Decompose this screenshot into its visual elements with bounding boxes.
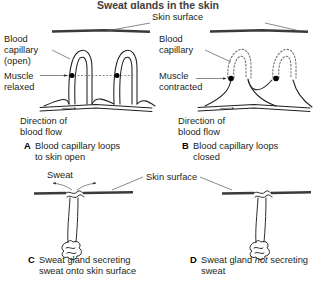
panel-d-caption-prefix: Sweat gland	[201, 255, 255, 265]
panel-d-skin-surface-right	[271, 192, 311, 193]
panel-a-muscle-label-line2: relaxed	[4, 82, 35, 92]
panel-c-sweat-label: Sweat	[47, 170, 73, 180]
panel-b-caption-line1: Blood capillary loops	[193, 141, 279, 151]
skin-surface-label-bottom: Skin surface	[146, 172, 197, 182]
panel-d-caption-suffix: secreting	[268, 255, 308, 265]
panel-b-caption-letter: B	[182, 141, 189, 151]
panel-b-capillary-label-line1: Blood	[159, 34, 183, 44]
panel-a-caption-line2: to skin open	[35, 152, 85, 162]
panel-d-caption-line2: sweat	[201, 266, 226, 276]
panel-c-caption-line1: Sweat gland secreting	[39, 255, 130, 265]
panel-b-muscle-label-line1: Muscle	[159, 71, 188, 81]
panel-c-skin-surface-left	[34, 193, 66, 194]
panel-c-caption-letter: C	[28, 255, 35, 265]
panel-a-capillary-label-line2: capillary	[4, 45, 38, 55]
panel-c-caption-line2: sweat onto skin surface	[39, 266, 136, 276]
panel-b-caption-line2: closed	[193, 152, 220, 162]
panel-a-caption-letter: A	[24, 141, 31, 151]
panel-a-flow-label-line2: blood flow	[20, 127, 62, 137]
panel-b-muscle-dot-left	[228, 76, 234, 82]
panel-b-capillary-label-line2: capillary	[159, 45, 193, 55]
panel-c-skin-surface-right	[83, 192, 133, 193]
panel-a-muscle-dot-right	[115, 73, 120, 78]
panel-a-muscle-dot-left	[70, 73, 75, 78]
panel-b-muscle-label-line2: contracted	[159, 82, 202, 92]
sweat-gland-and-capillary-figure: Sweat glands in the skin Blood capillary…	[0, 0, 317, 282]
panel-a-caption-line1: Blood capillary loops	[35, 141, 121, 151]
panel-b-muscle-dot-right	[273, 76, 279, 82]
panel-d-caption-line1: Sweat gland not secreting	[201, 255, 308, 265]
panel-b-flow-label-line1: Direction of	[178, 116, 225, 126]
skin-surface-label-top: Skin surface	[152, 12, 203, 22]
panel-a-muscle-label-line1: Muscle	[4, 71, 33, 81]
panel-b-flow-label-line2: blood flow	[178, 127, 220, 137]
panel-d-caption-emphasis: not	[255, 255, 268, 265]
panel-a-capillary-label-line3: (open)	[4, 56, 31, 66]
panel-a-flow-label-line1: Direction of	[20, 116, 67, 126]
panel-d-skin-surface-left	[222, 193, 254, 194]
panel-a-capillary-label-line1: Blood	[4, 34, 28, 44]
panel-d-caption-letter: D	[190, 255, 197, 265]
